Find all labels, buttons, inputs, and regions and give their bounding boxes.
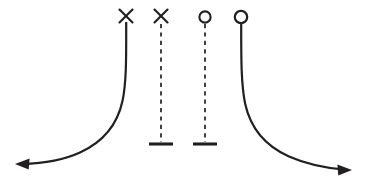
open-circle-marker-1-icon (199, 11, 210, 22)
canvas-background (0, 0, 365, 191)
diagram-svg (0, 0, 365, 191)
open-circle-marker-2-icon (235, 11, 247, 23)
diagram-canvas (0, 0, 365, 191)
